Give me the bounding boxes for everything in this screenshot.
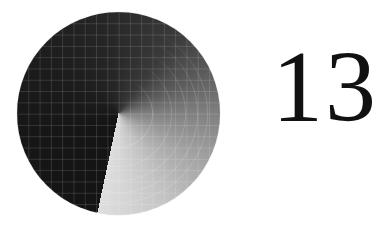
radar-sweep-dial <box>17 12 220 215</box>
count-value: 13 <box>272 32 382 142</box>
dial-concentric-rings <box>17 12 220 215</box>
